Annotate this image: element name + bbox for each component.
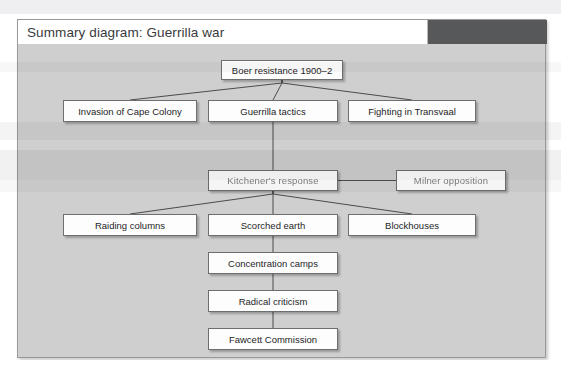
scan-artifact-band [0, 0, 561, 14]
diagram-node-label: Radical criticism [239, 296, 308, 307]
diagram-node-camps: Concentration camps [208, 252, 338, 274]
diagram-node-label: Fighting in Transvaal [368, 106, 456, 117]
summary-diagram-panel: Summary diagram: Guerrilla war Boer resi… [17, 19, 546, 358]
diagram-node-label: Guerrilla tactics [240, 106, 305, 117]
edge-boer-to-transvaal [282, 83, 412, 100]
diagram-node-scorched: Scorched earth [208, 214, 338, 236]
diagram-node-fawcett: Fawcett Commission [208, 328, 338, 350]
diagram-node-kitchener: Kitchener's response [208, 170, 338, 191]
diagram-node-boer: Boer resistance 1900–2 [221, 60, 343, 80]
diagram-node-label: Invasion of Cape Colony [78, 106, 182, 117]
diagram-node-milner: Milner opposition [396, 170, 506, 191]
panel-title-accent-block [428, 20, 547, 44]
edge-boer-to-invasion [130, 83, 282, 100]
edge-kitchener-to-raiding [130, 194, 273, 214]
diagram-node-raiding: Raiding columns [63, 214, 197, 236]
diagram-node-label: Milner opposition [414, 175, 488, 186]
edge-kitchener-to-blockhouses [273, 194, 412, 214]
panel-title-plate: Summary diagram: Guerrilla war [18, 20, 428, 44]
diagram-node-label: Blockhouses [385, 220, 439, 231]
panel-title-bar: Summary diagram: Guerrilla war [18, 20, 547, 44]
diagram-node-radical: Radical criticism [208, 290, 338, 312]
diagram-node-label: Boer resistance 1900–2 [232, 65, 332, 76]
page-title: Summary diagram: Guerrilla war [18, 25, 224, 40]
diagram-node-blockhouses: Blockhouses [348, 214, 476, 236]
diagram-node-label: Fawcett Commission [229, 334, 317, 345]
diagram-node-label: Scorched earth [241, 220, 305, 231]
diagram-node-invasion: Invasion of Cape Colony [63, 100, 197, 122]
diagram-node-label: Kitchener's response [227, 175, 318, 186]
edge-boer-to-tactics [273, 83, 282, 100]
scanned-page: Summary diagram: Guerrilla war Boer resi… [0, 0, 561, 377]
diagram-node-tactics: Guerrilla tactics [208, 100, 338, 122]
diagram-node-label: Raiding columns [95, 220, 165, 231]
diagram-node-transvaal: Fighting in Transvaal [348, 100, 476, 122]
diagram-node-label: Concentration camps [228, 258, 318, 269]
diagram-canvas: Boer resistance 1900–2Invasion of Cape C… [18, 44, 545, 357]
scan-artifact-band [0, 360, 561, 377]
